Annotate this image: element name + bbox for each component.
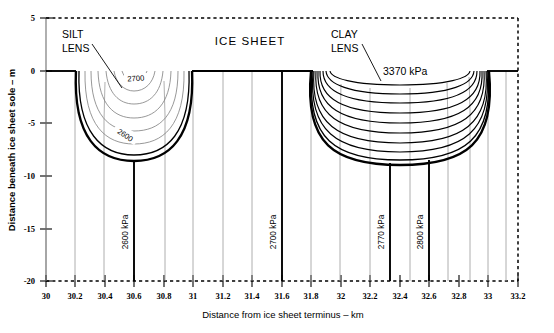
x-tick-label-31: 31: [189, 291, 198, 301]
x-tick-label-32-6: 32.6: [422, 291, 437, 301]
x-tick-label-31-2: 31.2: [216, 291, 231, 301]
x-tick-label-32-8: 32.8: [452, 291, 467, 301]
x-tick-label-33-2: 33.2: [511, 291, 526, 301]
y-tick-label-0: 0: [31, 66, 35, 76]
x-tick-label-30-8: 30.8: [157, 291, 172, 301]
y-tick-label-m5: -5: [28, 118, 35, 128]
x-tick-label-32: 32: [337, 291, 346, 301]
y-tick-label-5: 5: [31, 13, 35, 23]
x-axis-title: Distance from ice sheet terminus – km: [202, 309, 364, 320]
equipotential-label-2770: 2770 kPa: [377, 214, 386, 249]
chart-svg: 5 0 -5 -10 -15 -20 Distance beneath ice …: [0, 0, 554, 333]
contour-label-3370: 3370 kPa: [383, 65, 428, 77]
contour-label-2700: 2700: [127, 73, 144, 83]
clay-lens-label-line2: LENS: [331, 42, 358, 54]
x-tick-label-30-4: 30.4: [98, 291, 114, 301]
x-tick-label-30: 30: [42, 291, 51, 301]
x-tick-label-31-8: 31.8: [304, 291, 319, 301]
x-tick-label-30-2: 30.2: [68, 291, 83, 301]
chart-figure: 5 0 -5 -10 -15 -20 Distance beneath ice …: [0, 0, 554, 333]
x-tick-label-32-2: 32.2: [363, 291, 378, 301]
clay-lens-label-line1: CLAY: [331, 28, 358, 40]
ice-sheet-label: ICE SHEET: [215, 35, 286, 47]
silt-lens-label-line2: LENS: [62, 42, 89, 54]
x-tick-label-31-4: 31.4: [245, 291, 261, 301]
x-tick-label-32-4: 32.4: [393, 291, 409, 301]
y-tick-label-m20: -20: [24, 276, 35, 286]
x-tick-label-33: 33: [484, 291, 493, 301]
equipotential-label-2700: 2700 kPa: [269, 214, 278, 249]
equipotential-label-2800: 2800 kPa: [416, 214, 425, 249]
y-axis-title: Distance beneath ice sheet sole – m: [6, 69, 17, 232]
x-tick-label-31-6: 31.6: [275, 291, 290, 301]
y-tick-label-m15: -15: [24, 224, 35, 234]
y-tick-label-m10: -10: [24, 171, 35, 181]
x-tick-label-30-6: 30.6: [127, 291, 142, 301]
silt-lens-label-line1: SILT: [62, 28, 84, 40]
equipotential-label-2600: 2600 kPa: [121, 214, 130, 249]
